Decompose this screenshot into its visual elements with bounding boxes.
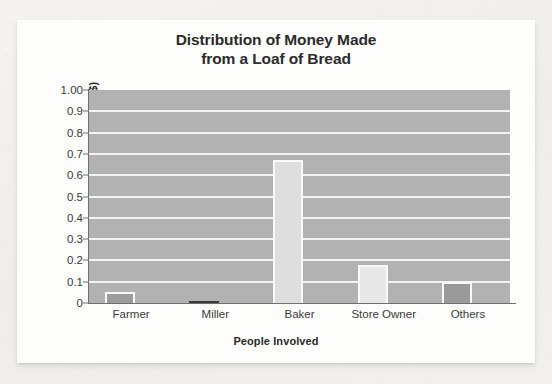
y-axis-tick-label: 0.1 (23, 276, 83, 288)
bar-miller[interactable] (189, 301, 219, 304)
y-axis-tick-label: 0.5 (23, 191, 83, 203)
y-axis-tick-label: 0.9 (23, 105, 83, 117)
bar-store-owner[interactable] (358, 265, 388, 303)
bar-slot (257, 90, 341, 303)
x-axis-line (89, 303, 516, 304)
y-axis-tick-label: 0.8 (23, 127, 83, 139)
x-axis-title: People Involved (17, 335, 535, 347)
bar-slot (426, 90, 510, 303)
x-axis-tick-label: Baker (257, 308, 341, 320)
y-axis-tick-label: 1.00 (23, 84, 83, 96)
y-axis-tick-label: 0.7 (23, 148, 83, 160)
y-axis-tick-label: 0.3 (23, 233, 83, 245)
x-axis-tick-group: FarmerMillerBakerStore OwnerOthers (89, 308, 510, 320)
x-axis-tick-label: Store Owner (342, 308, 426, 320)
bar-series (89, 90, 510, 303)
bar-baker[interactable] (273, 160, 303, 303)
y-axis-tick-label: 0.4 (23, 212, 83, 224)
x-axis-tick-label: Miller (173, 308, 257, 320)
bar-others[interactable] (442, 282, 472, 303)
bar-slot (173, 90, 257, 303)
chart-card: Distribution of Money Made from a Loaf o… (17, 20, 535, 363)
plot-area-wrapper (89, 90, 510, 303)
bar-farmer[interactable] (105, 292, 135, 303)
y-axis-tick-label: 0.2 (23, 254, 83, 266)
x-axis-tick-label: Farmer (89, 308, 173, 320)
bar-slot (89, 90, 173, 303)
bar-slot (342, 90, 426, 303)
plot-area (89, 90, 510, 303)
y-axis-tick-label: 0.6 (23, 169, 83, 181)
x-axis-tick-label: Others (426, 308, 510, 320)
y-axis-tick-label: 0 (23, 297, 83, 309)
